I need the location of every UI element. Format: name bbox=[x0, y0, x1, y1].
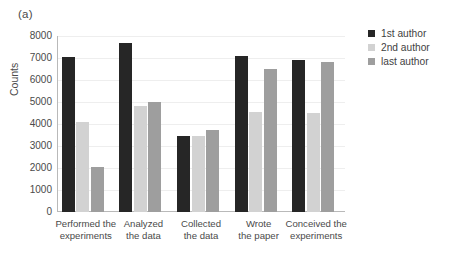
y-axis-tick-label: 8000 bbox=[30, 31, 52, 41]
y-axis-tick-label: 4000 bbox=[30, 119, 52, 129]
bar[interactable] bbox=[292, 60, 305, 212]
bar[interactable] bbox=[321, 62, 334, 212]
legend-label: last author bbox=[381, 56, 429, 67]
legend-label: 2nd author bbox=[381, 42, 430, 53]
bar[interactable] bbox=[91, 167, 104, 212]
bar-group bbox=[292, 36, 334, 212]
bar[interactable] bbox=[134, 106, 147, 212]
bar-group bbox=[177, 36, 219, 212]
bar-group bbox=[119, 36, 161, 212]
y-axis-tick-label: 3000 bbox=[30, 141, 52, 151]
bar[interactable] bbox=[206, 130, 219, 213]
bar-group bbox=[235, 36, 277, 212]
y-axis-tick-label: 1000 bbox=[30, 185, 52, 195]
bar[interactable] bbox=[177, 136, 190, 212]
y-axis-title: Counts bbox=[8, 63, 20, 96]
y-axis-tick-label: 2000 bbox=[30, 163, 52, 173]
bar[interactable] bbox=[148, 102, 161, 212]
bar[interactable] bbox=[264, 69, 277, 212]
bar[interactable] bbox=[249, 112, 262, 212]
bar[interactable] bbox=[235, 56, 248, 212]
legend-label: 1st author bbox=[381, 28, 426, 39]
x-axis-tick-label: Conceived theexperiments bbox=[281, 218, 351, 241]
panel-label: (a) bbox=[18, 8, 33, 20]
figure-panel: (a) Counts 01000200030004000500060007000… bbox=[0, 0, 458, 268]
legend-item[interactable]: last author bbox=[368, 54, 430, 68]
y-axis-tick-label: 7000 bbox=[30, 53, 52, 63]
legend-item[interactable]: 1st author bbox=[368, 26, 430, 40]
chart-legend: 1st author2nd authorlast author bbox=[368, 26, 430, 68]
y-axis-line bbox=[57, 36, 58, 212]
bar[interactable] bbox=[62, 57, 75, 212]
plot-area: 010002000300040005000600070008000 Perfor… bbox=[57, 36, 345, 212]
legend-swatch-icon bbox=[368, 30, 375, 37]
y-axis-tick-label: 6000 bbox=[30, 75, 52, 85]
bar[interactable] bbox=[119, 43, 132, 212]
bar-group bbox=[62, 36, 104, 212]
legend-swatch-icon bbox=[368, 58, 375, 65]
bar[interactable] bbox=[76, 122, 89, 212]
y-axis-tick-label: 5000 bbox=[30, 97, 52, 107]
bar[interactable] bbox=[192, 136, 205, 212]
legend-item[interactable]: 2nd author bbox=[368, 40, 430, 54]
bar[interactable] bbox=[307, 113, 320, 212]
y-axis-tick-label: 0 bbox=[46, 207, 52, 217]
legend-swatch-icon bbox=[368, 44, 375, 51]
